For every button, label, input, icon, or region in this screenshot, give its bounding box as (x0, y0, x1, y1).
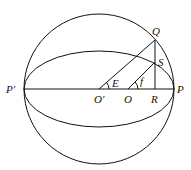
label-r: R (150, 93, 158, 105)
angle-f-arc (135, 82, 138, 89)
label-o-prime: O′ (94, 93, 105, 105)
label-f: f (140, 75, 145, 87)
label-p: P (176, 83, 184, 95)
angle-e-arc (107, 82, 110, 89)
sphere-diagram: P′ P O′ O R Q S E f (0, 0, 191, 170)
label-s: S (158, 56, 164, 68)
label-p-prime: P′ (5, 83, 16, 95)
label-o: O (124, 93, 132, 105)
label-q: Q (152, 25, 160, 37)
label-e: E (111, 77, 119, 89)
line-o-prime-q (99, 40, 155, 89)
